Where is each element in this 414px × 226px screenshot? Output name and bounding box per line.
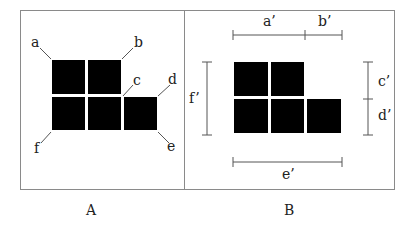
label-f-prime: f’	[189, 91, 200, 105]
label-b: b	[134, 35, 143, 49]
label-d: d	[168, 72, 177, 86]
label-a: a	[31, 35, 39, 49]
leader-c	[123, 85, 133, 96]
label-b-prime: b’	[318, 14, 331, 28]
leader-f	[41, 132, 51, 143]
diagram-lines	[0, 0, 414, 226]
label-a-prime: a’	[263, 14, 276, 28]
label-e-prime: e’	[282, 167, 295, 181]
leader-a	[40, 48, 51, 59]
label-d-prime: d’	[378, 108, 391, 122]
label-c-prime: c’	[378, 74, 390, 88]
label-e: e	[167, 139, 175, 153]
caption-b: B	[284, 203, 294, 217]
label-f: f	[34, 141, 39, 155]
leader-b	[122, 48, 133, 59]
label-c: c	[133, 73, 141, 87]
caption-a: A	[86, 203, 96, 217]
